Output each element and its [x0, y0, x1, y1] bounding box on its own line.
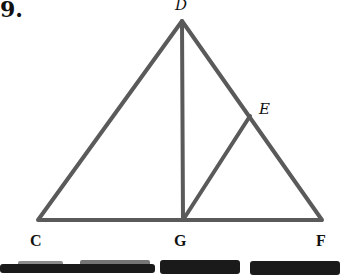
- label-d: D: [175, 0, 187, 14]
- triangle-figure: [0, 0, 340, 278]
- label-c: C: [30, 232, 42, 250]
- triangle-cdf: [38, 21, 322, 220]
- segment-dg: [182, 21, 183, 220]
- label-f: F: [316, 232, 326, 250]
- label-g: G: [174, 232, 186, 250]
- illegible-text-strip: [0, 255, 340, 278]
- segment-ge: [183, 116, 250, 220]
- label-e: E: [259, 100, 270, 118]
